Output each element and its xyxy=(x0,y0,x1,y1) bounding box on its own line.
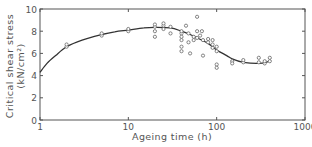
data-point-marker xyxy=(162,27,165,30)
x-tick-label: 1 xyxy=(37,122,43,132)
y-tick-label: 6 xyxy=(31,49,37,59)
y-axis-label-line2: (kN/cm²) xyxy=(15,43,26,89)
data-point-marker xyxy=(196,15,199,18)
data-point-marker xyxy=(257,56,260,59)
shear-stress-chart: 0246810 1101001000 Ageing time (h) Criti… xyxy=(0,0,312,147)
data-point-marker xyxy=(207,37,210,40)
data-point-marker xyxy=(201,54,204,57)
data-point-marker xyxy=(257,61,260,64)
y-tick-label: 2 xyxy=(31,93,37,103)
data-point-marker xyxy=(268,56,271,59)
data-point-marker xyxy=(169,25,172,28)
data-point-marker xyxy=(180,30,183,33)
data-point-marker xyxy=(169,32,172,35)
data-point-marker xyxy=(180,45,183,48)
data-point-marker xyxy=(263,60,266,63)
data-point-marker xyxy=(65,43,68,46)
y-axis-label-line1: Critical shear stress xyxy=(4,14,15,118)
y-tick-label: 8 xyxy=(31,27,37,37)
data-point-marker xyxy=(207,41,210,44)
y-tick-label: 4 xyxy=(31,71,37,81)
data-point-marker xyxy=(153,35,156,38)
data-point-marker xyxy=(100,32,103,35)
data-point-marker xyxy=(192,39,195,42)
data-point-marker xyxy=(215,50,218,53)
data-point-marker xyxy=(215,66,218,69)
x-axis-label: Ageing time (h) xyxy=(132,131,212,142)
data-point-marker xyxy=(215,45,218,48)
data-point-marker xyxy=(184,24,187,27)
data-point-marker xyxy=(189,52,192,55)
fitted-curve-path xyxy=(40,27,270,72)
data-point-marker xyxy=(162,22,165,25)
data-point-marker xyxy=(192,35,195,38)
data-point-marker xyxy=(242,59,245,62)
data-point-marker xyxy=(180,50,183,53)
data-point-marker xyxy=(187,41,190,44)
y-axis-label-group: Critical shear stress (kN/cm²) xyxy=(4,14,26,118)
data-point-marker xyxy=(127,27,130,30)
data-point-marker xyxy=(199,34,202,37)
data-point-marker xyxy=(187,32,190,35)
chart-container: 0246810 1101001000 Ageing time (h) Criti… xyxy=(0,0,312,147)
data-point-marker xyxy=(201,39,204,42)
data-point-marker xyxy=(180,35,183,38)
data-point-marker xyxy=(231,62,234,65)
data-point-marker xyxy=(215,63,218,66)
data-point-marker xyxy=(196,30,199,33)
data-point-marker xyxy=(211,46,214,49)
y-tick-label: 10 xyxy=(26,5,38,15)
data-point-marker xyxy=(211,43,214,46)
data-point-marker xyxy=(153,30,156,33)
data-point-marker xyxy=(180,39,183,42)
fitted-curve xyxy=(40,27,270,72)
data-point-marker xyxy=(196,36,199,39)
data-point-marker xyxy=(211,39,214,42)
x-axis-ticks: 1101001000 xyxy=(37,9,312,132)
data-point-marker xyxy=(153,23,156,26)
data-point-marker xyxy=(268,60,271,63)
data-point-marker xyxy=(200,30,203,33)
x-tick-label: 1000 xyxy=(294,122,312,132)
